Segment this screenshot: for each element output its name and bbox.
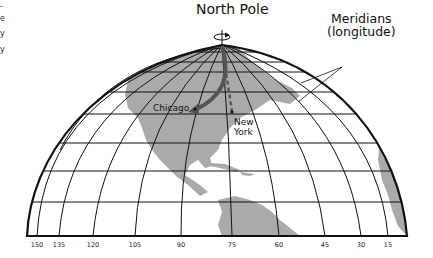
new-york-dot bbox=[230, 110, 233, 113]
longitude-tick: 30 bbox=[357, 241, 365, 249]
longitude-tick: 75 bbox=[228, 241, 236, 249]
longitude-tick: 15 bbox=[384, 241, 392, 249]
north-pole-label: North Pole bbox=[196, 1, 269, 17]
longitude-tick: 105 bbox=[129, 241, 141, 249]
chicago-dot bbox=[193, 107, 196, 110]
cropped-text-fragment: y bbox=[0, 29, 5, 38]
cropped-text-fragment: - bbox=[0, 2, 3, 11]
africa-edge bbox=[378, 140, 407, 236]
chicago-label: Chicago bbox=[153, 103, 189, 113]
cropped-text-fragment: e bbox=[0, 14, 5, 23]
meridians-label: Meridians (longitude) bbox=[327, 12, 396, 38]
meridians-label-line2: (longitude) bbox=[327, 25, 396, 38]
longitude-tick: 120 bbox=[87, 241, 99, 249]
cropped-text-fragment: y bbox=[0, 45, 5, 54]
longitude-tick: 135 bbox=[53, 241, 65, 249]
longitude-tick: 45 bbox=[321, 241, 329, 249]
new-york-label: New York bbox=[234, 117, 254, 137]
longitude-tick: 150 bbox=[31, 241, 43, 249]
new-york-label-line1: New bbox=[234, 117, 254, 127]
longitude-tick: 90 bbox=[177, 241, 185, 249]
new-york-label-line2: York bbox=[234, 127, 254, 137]
land-masses bbox=[125, 44, 407, 236]
longitude-tick: 60 bbox=[275, 241, 283, 249]
rotation-icon bbox=[214, 30, 230, 46]
